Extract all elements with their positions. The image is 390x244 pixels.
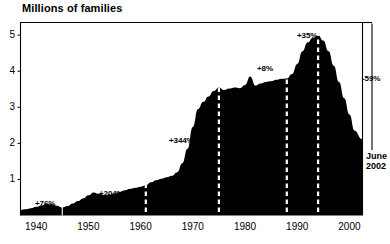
end-label-line1: June	[366, 151, 387, 161]
end-label-june-2002: June 2002	[364, 150, 388, 172]
x-tick-label-1950: 1950	[68, 221, 108, 232]
y-tick-label-4: 4	[1, 65, 15, 76]
x-tick-label-1990: 1990	[277, 221, 317, 232]
annotation-ann-59: -59%	[362, 74, 380, 83]
annotation-ann-8: +8%	[257, 64, 273, 73]
x-tick-label-1970: 1970	[173, 221, 213, 232]
x-tick-label-1940: 1940	[16, 221, 56, 232]
y-tick-label-2: 2	[1, 137, 15, 148]
annotation-ann-344: +344%	[169, 136, 194, 145]
annotation-ann-204: +204%	[99, 189, 124, 198]
chart-root: Millions of families 12345 1940195019601…	[0, 0, 390, 244]
x-tick-label-2000: 2000	[329, 221, 369, 232]
end-label-line2: 2002	[366, 161, 387, 171]
x-tick-label-1960: 1960	[121, 221, 161, 232]
y-tick-label-5: 5	[1, 29, 15, 40]
chart-plot-svg	[0, 0, 390, 244]
y-tick-label-1: 1	[1, 173, 15, 184]
y-tick-label-3: 3	[1, 101, 15, 112]
x-tick-label-1980: 1980	[225, 221, 265, 232]
annotation-ann-76: +76%	[35, 199, 55, 208]
annotation-ann-35: +35%	[297, 31, 317, 40]
